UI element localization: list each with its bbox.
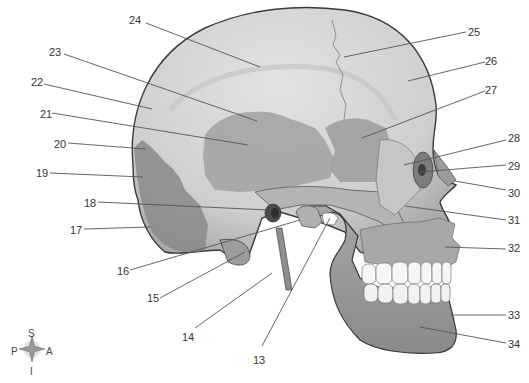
label-24: 24: [129, 14, 141, 26]
label-27: 27: [485, 84, 497, 96]
label-25: 25: [468, 26, 480, 38]
label-34: 34: [508, 338, 520, 350]
label-26: 26: [485, 55, 497, 67]
compass-anterior: A: [46, 347, 53, 357]
label-15: 15: [147, 292, 159, 304]
label-19: 19: [36, 167, 48, 179]
leader-line-22: [44, 84, 152, 109]
leader-line-13: [262, 218, 330, 346]
compass-posterior: P: [11, 347, 18, 357]
label-13: 13: [253, 354, 265, 366]
upper-teeth: [362, 262, 451, 284]
skull-diagram: 1314151617181920212223242526272829303132…: [0, 0, 529, 383]
label-17: 17: [70, 224, 82, 236]
leader-line-30: [455, 181, 506, 190]
label-21: 21: [40, 108, 52, 120]
compass-rose-icon: [19, 336, 45, 362]
leader-line-17: [84, 227, 150, 229]
styloid-process: [276, 228, 292, 290]
leader-line-15: [160, 252, 245, 298]
label-14: 14: [182, 331, 194, 343]
label-33: 33: [508, 309, 520, 321]
leader-line-14: [195, 273, 272, 328]
label-20: 20: [54, 138, 66, 150]
label-16: 16: [117, 265, 129, 277]
label-18: 18: [84, 197, 96, 209]
label-31: 31: [508, 214, 520, 226]
leader-line-19: [50, 173, 143, 177]
label-29: 29: [508, 160, 520, 172]
lacrimal-fossa: [418, 164, 426, 176]
skull-illustration: [0, 0, 529, 383]
label-23: 23: [49, 46, 61, 58]
label-32: 32: [508, 242, 520, 254]
label-30: 30: [508, 187, 520, 199]
label-28: 28: [508, 132, 520, 144]
compass-inferior: I: [30, 367, 33, 377]
compass-superior: S: [28, 329, 35, 339]
label-22: 22: [31, 76, 43, 88]
